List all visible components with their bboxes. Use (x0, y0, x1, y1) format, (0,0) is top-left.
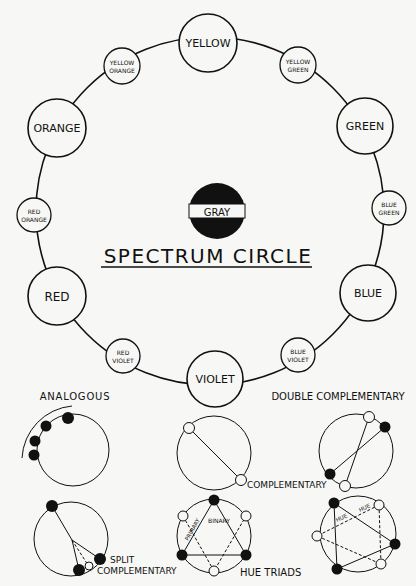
hue-node-blue: BLUE (340, 265, 396, 321)
spectrum-diagram: YELLOWYELLOWGREENGREENBLUEGREENBLUEBLUEV… (0, 0, 416, 586)
hue-node-red: RED (28, 267, 86, 325)
page-title: SPECTRUM CIRCLE (104, 244, 313, 268)
hue-label: GREEN (346, 120, 384, 133)
split-label-2: COMPLEMENTARY (97, 566, 177, 576)
hue-label-b: HUE (358, 502, 372, 513)
hue-label: ORANGE (109, 67, 135, 74)
split-complementary-diagram: SPLIT COMPLEMENTARY (34, 500, 177, 576)
hue-label: YELLOW (184, 37, 230, 50)
analogous-diagram: ANALOGOUS (22, 391, 110, 486)
hue-label: BLUE (354, 287, 382, 300)
gray-label: GRAY (204, 207, 231, 218)
hue-node-red-violet: REDVIOLET (106, 339, 140, 373)
complementary-label: COMPLEMENTARY (247, 480, 327, 490)
hue-label: GREEN (288, 66, 309, 73)
hue-label: VIOLET (112, 357, 134, 364)
hue-node-blue-violet: BLUEVIOLET (281, 338, 315, 372)
complementary-diagram: COMPLEMENTARY (177, 416, 327, 490)
hue-label: RED (117, 349, 130, 356)
double-complementary-label: DOUBLE COMPLEMENTARY (271, 391, 405, 402)
hue-triads-label: HUE TRIADS (240, 567, 301, 578)
hue-label: RED (28, 208, 41, 215)
hue-triads-diagram: HUE HUE (312, 496, 401, 575)
hue-node-green: GREEN (337, 98, 393, 154)
hue-label: VIOLET (195, 373, 235, 386)
hue-node-yellow: YELLOW (179, 14, 237, 72)
hue-label: BLUE (290, 348, 306, 355)
hue-node-red-orange: REDORANGE (17, 198, 51, 232)
hue-node-yellow-orange: YELLOWORANGE (104, 48, 140, 84)
analogous-label: ANALOGOUS (40, 391, 111, 402)
hue-label: ORANGE (33, 122, 80, 135)
hue-label: YELLOW (109, 59, 135, 66)
double-complementary-diagram: DOUBLE COMPLEMENTARY (271, 391, 405, 492)
split-label-1: SPLIT (110, 555, 135, 565)
hue-label: GREEN (379, 209, 400, 216)
gray-center: GRAY (189, 183, 245, 239)
hue-label: RED (44, 290, 69, 304)
binary-label: BINARY (208, 517, 230, 524)
hue-node-violet: VIOLET (187, 351, 243, 407)
hue-label: VIOLET (287, 356, 309, 363)
hue-label: ORANGE (21, 216, 47, 223)
hue-node-orange: ORANGE (28, 99, 86, 157)
hue-label: BLUE (381, 201, 397, 208)
hue-triads-primary-diagram: PRIMARY BINARY HUE TRIADS (177, 495, 302, 579)
hue-label: YELLOW (285, 58, 311, 65)
hue-node-blue-green: BLUEGREEN (372, 191, 406, 225)
hue-node-yellow-green: YELLOWGREEN (280, 47, 316, 83)
